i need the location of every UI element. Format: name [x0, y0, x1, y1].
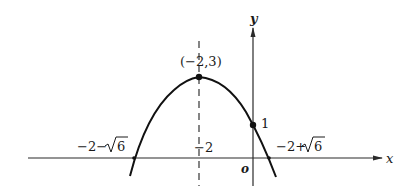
- x-axis-label: x: [386, 151, 394, 166]
- parabola-curve-left: [130, 77, 199, 176]
- axis-of-symmetry-label: −2: [194, 140, 213, 155]
- root-label-left-radicand: 6: [117, 139, 125, 154]
- parabola-diagram: x y o (−2,3) 1 −2 −2− 6 −2+ 6: [0, 0, 414, 194]
- root-label-right: −2+ 6: [276, 137, 325, 154]
- root-label-right-radicand: 6: [314, 139, 322, 154]
- y-intercept-label: 1: [261, 116, 269, 131]
- y-intercept-point: [250, 122, 256, 128]
- root-label-right-prefix: −2+: [276, 139, 306, 154]
- root-label-left: −2− 6: [77, 137, 128, 154]
- root-point-left: [132, 156, 136, 160]
- vertex-point: [196, 74, 202, 80]
- y-axis-label: y: [249, 11, 259, 26]
- root-point-right: [267, 156, 271, 160]
- vertex-label: (−2,3): [180, 54, 222, 69]
- origin-label: o: [241, 162, 249, 176]
- root-label-left-prefix: −2−: [77, 139, 107, 154]
